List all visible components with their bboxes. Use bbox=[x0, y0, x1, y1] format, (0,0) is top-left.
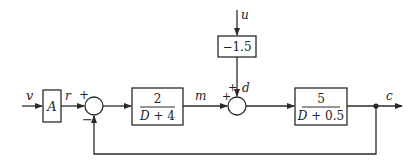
signal-v-label: v bbox=[26, 88, 34, 103]
block-diagram: v A r + − 2 D + 4 m u −1.5 d + + 5 D + 0… bbox=[0, 0, 418, 166]
plant-numerator: 5 bbox=[317, 92, 325, 106]
controller-denominator: D + 4 bbox=[139, 109, 175, 123]
signal-r-label: r bbox=[65, 89, 72, 103]
disturbance-gain-label: −1.5 bbox=[222, 40, 251, 54]
signal-u-label: u bbox=[241, 8, 249, 22]
controller-numerator: 2 bbox=[154, 92, 162, 106]
gain-block-a-label: A bbox=[46, 99, 56, 114]
signal-c-label: c bbox=[386, 89, 393, 103]
sum1-plus-sign: + bbox=[79, 88, 89, 102]
signal-m-label: m bbox=[195, 89, 206, 103]
sum1-minus-sign: − bbox=[82, 112, 93, 127]
sum2-top-plus-sign: + bbox=[228, 81, 237, 94]
signal-d-label: d bbox=[242, 81, 250, 95]
plant-denominator: D + 0.5 bbox=[297, 109, 344, 123]
